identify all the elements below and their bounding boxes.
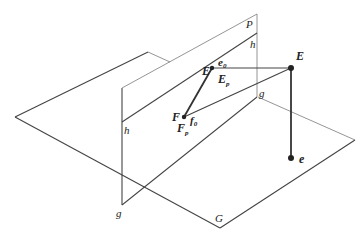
E-projection-point — [210, 66, 214, 70]
picture-plane — [122, 14, 257, 205]
ground-plane — [15, 52, 355, 228]
label-E-proj: E — [201, 64, 210, 78]
eye-foot-point — [288, 155, 294, 161]
label-h-right: h — [250, 38, 256, 50]
label-f0: f0 — [190, 114, 198, 128]
label-Fp: Fp — [176, 121, 189, 137]
eye-point — [288, 65, 294, 71]
label-g-bottom: g — [116, 207, 122, 219]
label-h-left: h — [124, 124, 130, 136]
label-Ep: Ep — [217, 72, 230, 88]
F-projection-point — [182, 115, 186, 119]
perspective-diagram: P h h g g G E e E e0 Ep F f0 Fp — [0, 0, 364, 237]
label-e0: e0 — [218, 56, 227, 70]
label-g-right: g — [259, 87, 265, 99]
label-E-eye: E — [295, 49, 304, 63]
label-G: G — [215, 212, 223, 224]
label-e-foot: e — [299, 152, 305, 166]
label-P: P — [245, 18, 253, 30]
